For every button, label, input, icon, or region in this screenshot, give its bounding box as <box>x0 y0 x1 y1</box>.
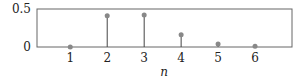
stem-marker <box>105 13 110 18</box>
x-tick-label: 3 <box>140 51 148 65</box>
x-tick-label: 4 <box>177 51 185 65</box>
stem-chart: 00.5 123456 n <box>0 0 306 80</box>
stem-marker <box>179 32 184 37</box>
x-tick-label: 5 <box>214 51 222 65</box>
stem-point <box>142 13 147 47</box>
stem-marker <box>253 44 258 49</box>
stem-marker <box>142 13 147 18</box>
y-tick-label: 0 <box>23 40 31 54</box>
stem-series <box>68 13 258 50</box>
stem-point <box>253 44 258 49</box>
x-axis-ticks: 123456 <box>66 51 258 65</box>
stem-point <box>68 45 73 50</box>
y-tick-label: 0.5 <box>12 2 31 16</box>
plot-area: 00.5 123456 n <box>0 0 306 80</box>
plot-frame <box>37 9 292 47</box>
stem-point <box>216 41 221 47</box>
x-tick-label: 1 <box>66 51 74 65</box>
x-axis-label: n <box>160 65 168 79</box>
x-tick-label: 6 <box>251 51 259 65</box>
y-axis-ticks: 00.5 <box>12 2 31 54</box>
x-tick-label: 2 <box>103 51 111 65</box>
stem-marker <box>216 41 221 46</box>
stem-point <box>179 32 184 47</box>
stem-marker <box>68 45 73 50</box>
stem-point <box>105 13 110 47</box>
